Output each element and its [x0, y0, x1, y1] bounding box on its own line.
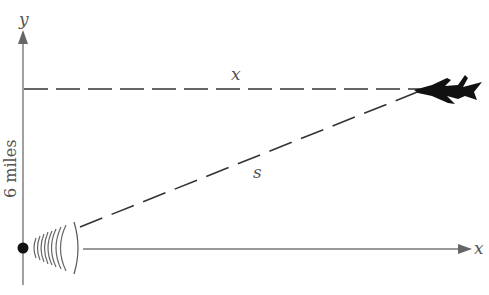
aircraft-icon: [414, 75, 482, 104]
radar-waves-icon: [34, 222, 78, 274]
horizontal-distance-label: x: [231, 64, 241, 84]
slant-distance-label: s: [253, 162, 262, 182]
x-axis-label: x: [474, 238, 484, 258]
radar-station-icon: [18, 243, 29, 254]
y-axis-label: y: [18, 9, 29, 29]
altitude-label: 6 miles: [1, 140, 20, 198]
slant-distance-line: [80, 91, 420, 227]
radar-diagram: y x x s 6 miles: [0, 0, 489, 295]
